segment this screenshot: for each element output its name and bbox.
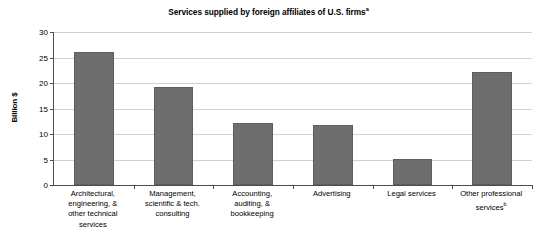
y-tick-label: 20 xyxy=(39,79,48,88)
x-category-label-line: services xyxy=(53,220,133,230)
bar-chart: Services supplied by foreign affiliates … xyxy=(0,0,537,248)
bars-group xyxy=(54,32,532,185)
x-category-label-line: auditing, & xyxy=(212,199,292,209)
x-category-label: Advertising xyxy=(292,189,372,199)
y-axis-title: Billion $ xyxy=(6,30,22,185)
x-category-label: Legal services xyxy=(372,189,452,199)
chart-title-footnote-marker: a xyxy=(366,6,369,12)
x-category-label-line: consulting xyxy=(133,209,213,219)
x-category-footnote-marker: b xyxy=(504,201,507,207)
bar xyxy=(472,72,512,185)
bar xyxy=(233,123,273,185)
y-axis-title-text: Billion $ xyxy=(10,92,19,122)
y-tick-mark xyxy=(50,185,54,186)
x-category-label-line: Architectural, xyxy=(53,189,133,199)
x-category-label-line: bookkeeping xyxy=(212,209,292,219)
y-tick-label: 10 xyxy=(39,130,48,139)
x-category-label-line: Legal services xyxy=(372,189,452,199)
x-category-label-line: Advertising xyxy=(292,189,372,199)
bar xyxy=(154,87,194,185)
x-axis-category-labels: Architectural,engineering, &other techni… xyxy=(53,189,531,245)
x-category-label-line: engineering, & xyxy=(53,199,133,209)
y-tick-label: 0 xyxy=(44,181,48,190)
y-tick-label: 25 xyxy=(39,53,48,62)
x-category-label-line: servicesb xyxy=(451,199,531,213)
x-category-label: Management,scientific & tech.consulting xyxy=(133,189,213,220)
y-tick-label: 15 xyxy=(39,104,48,113)
x-category-label: Accounting,auditing, &bookkeeping xyxy=(212,189,292,220)
x-category-label-line: scientific & tech. xyxy=(133,199,213,209)
bar xyxy=(74,52,114,185)
bar xyxy=(313,125,353,185)
x-category-label-line: Other professional xyxy=(451,189,531,199)
plot-area: 051015202530 xyxy=(53,32,532,186)
x-category-label: Other professionalservicesb xyxy=(451,189,531,213)
x-tick-mark xyxy=(532,185,533,189)
chart-title-text: Services supplied by foreign affiliates … xyxy=(168,7,365,17)
y-tick-label: 30 xyxy=(39,28,48,37)
x-category-label: Architectural,engineering, &other techni… xyxy=(53,189,133,230)
x-category-label-line: other technical xyxy=(53,209,133,219)
bar xyxy=(393,159,433,185)
x-category-label-line: Accounting, xyxy=(212,189,292,199)
chart-title: Services supplied by foreign affiliates … xyxy=(0,6,537,17)
y-tick-label: 5 xyxy=(44,155,48,164)
x-category-label-line: Management, xyxy=(133,189,213,199)
